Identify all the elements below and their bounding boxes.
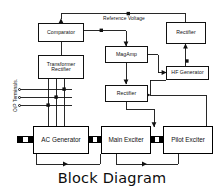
line-rectifier-to-pilot-exciter	[126, 102, 154, 127]
output-terminals-label: O/P Terminals.	[13, 79, 18, 112]
line-hfgen-feed-down	[150, 80, 166, 95]
terminal-dot-2	[18, 96, 21, 99]
shaft-coupling-ac-to-main	[88, 136, 102, 143]
terminal-dot-1	[18, 88, 21, 91]
node-rectifier-mid-label: Rectifier	[117, 91, 136, 96]
block-diagram-canvas: Reference Voltage O/P Terminals. Compara…	[0, 0, 224, 195]
arrow-feedback-pilot-to-main	[142, 162, 147, 167]
line-pilot-right-tie	[150, 95, 206, 127]
shaft-coupling-main-to-pilot	[150, 136, 164, 143]
node-main-exciter-label: Main Exciter	[108, 137, 143, 144]
shaft-coupling-left	[17, 136, 34, 143]
node-pilot-exciter-label: Pilot Exciter	[171, 137, 205, 144]
junction-dot-tap-1	[62, 87, 65, 90]
node-rectifier-top-right[interactable]: Rectifier	[166, 22, 206, 44]
arrow-feedback-main-to-ac	[63, 162, 68, 167]
diagram-title: Block Diagram	[0, 170, 224, 186]
node-hf-generator[interactable]: HF Generator	[166, 66, 209, 80]
node-ac-generator-label: AC Generator	[41, 137, 80, 144]
node-hf-generator-label: HF Generator	[171, 70, 203, 75]
node-ac-generator[interactable]: AC Generator	[33, 126, 89, 154]
node-magamp[interactable]: MagAmp	[105, 46, 148, 63]
node-pilot-exciter[interactable]: Pilot Exciter	[163, 126, 213, 154]
node-main-exciter[interactable]: Main Exciter	[101, 126, 151, 154]
junction-dot-comparator-out	[100, 29, 103, 32]
line-feedback-pilot-to-main	[116, 154, 178, 164]
reference-voltage-label: Reference Voltage	[103, 16, 145, 21]
line-feedback-main-to-ac	[36, 154, 100, 164]
arrow-into-rectifier-topright	[183, 43, 188, 48]
arrow-into-rectifier-mid	[124, 80, 129, 85]
node-comparator-label: Comparator	[47, 30, 75, 35]
line-magamp-hfgen-link	[148, 55, 166, 73]
node-comparator[interactable]: Comparator	[38, 23, 84, 42]
junction-dot-hfgen-up	[185, 59, 188, 62]
line-comparator-to-magamp	[84, 31, 126, 47]
node-rectifier-top-right-label: Rectifier	[176, 30, 195, 35]
node-magamp-label: MagAmp	[116, 52, 137, 57]
junction-dot-tap-2	[54, 95, 57, 98]
node-transformer-rectifier[interactable]: Transformer Rectifier	[38, 55, 84, 79]
node-rectifier-mid[interactable]: Rectifier	[105, 85, 148, 102]
terminal-dot-3	[18, 104, 21, 107]
junction-dot-tap-3	[46, 103, 49, 106]
node-transformer-rectifier-label-line-2: Rectifier	[51, 67, 70, 72]
arrow-into-pilot-exciter	[152, 122, 157, 127]
